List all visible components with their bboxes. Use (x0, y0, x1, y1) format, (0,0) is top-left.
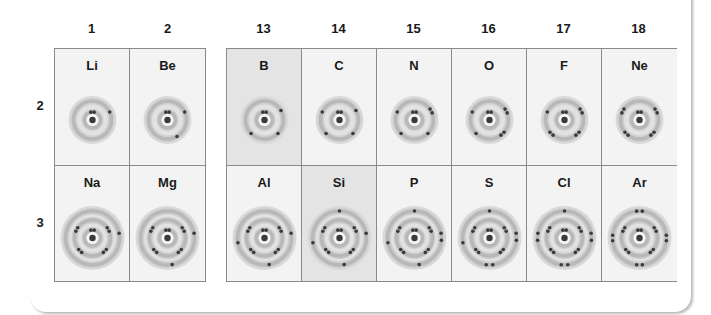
bohr-model-icon (55, 49, 130, 166)
element-cell-o: O (452, 49, 527, 166)
bohr-model-icon (55, 166, 130, 281)
element-cell-c: C (302, 49, 377, 166)
group-label-17: 17 (526, 21, 601, 36)
element-cell-p: P (377, 166, 452, 281)
element-cell-al: Al (227, 166, 302, 281)
bohr-model-icon (302, 49, 377, 166)
element-cell-f: F (527, 49, 602, 166)
group-label-2: 2 (130, 21, 205, 36)
group-label-14: 14 (301, 21, 376, 36)
group-label-13: 13 (226, 21, 301, 36)
element-cell-li: Li (55, 49, 130, 166)
bohr-model-icon (452, 166, 527, 281)
bohr-model-icon (302, 166, 377, 281)
bohr-model-icon (602, 166, 677, 281)
element-cell-mg: Mg (130, 166, 205, 281)
bohr-model-icon (227, 49, 302, 166)
element-cell-ar: Ar (602, 166, 677, 281)
element-cell-ne: Ne (602, 49, 677, 166)
bohr-model-icon (527, 166, 602, 281)
period-label-3: 3 (30, 215, 50, 230)
group-label-15: 15 (376, 21, 451, 36)
table-groups-1-2: LiBeNaMg (54, 48, 206, 282)
element-cell-si: Si (302, 166, 377, 281)
group-label-16: 16 (451, 21, 526, 36)
bohr-model-icon (227, 166, 302, 281)
element-cell-na: Na (55, 166, 130, 281)
bohr-model-icon (602, 49, 677, 166)
bohr-model-icon (377, 49, 452, 166)
element-cell-s: S (452, 166, 527, 281)
bohr-model-icon (377, 166, 452, 281)
bohr-model-icon (527, 49, 602, 166)
element-cell-cl: Cl (527, 166, 602, 281)
group-label-1: 1 (54, 21, 129, 36)
bohr-model-icon (130, 166, 205, 281)
element-cell-be: Be (130, 49, 205, 166)
table-groups-13-18: BCNOFNeAlSiPSClAr (226, 48, 677, 282)
element-cell-n: N (377, 49, 452, 166)
bohr-model-icon (130, 49, 205, 166)
group-label-18: 18 (601, 21, 676, 36)
bohr-model-icon (452, 49, 527, 166)
period-label-2: 2 (30, 98, 50, 113)
element-cell-b: B (227, 49, 302, 166)
